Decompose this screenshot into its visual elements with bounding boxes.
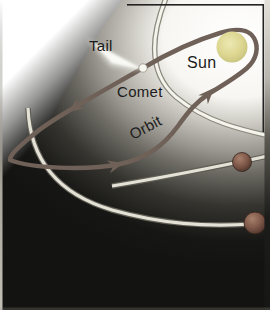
- comet-head: [139, 64, 147, 72]
- orbit-label: Orbit: [126, 111, 164, 142]
- inner-planet: [233, 153, 252, 172]
- diagram-canvas: Tail Sun Comet Orbit: [0, 0, 270, 310]
- comet-orbit-figure: Tail Sun Comet Orbit: [0, 0, 270, 310]
- outer-planet: [244, 212, 266, 234]
- panel-right-frame-line: [263, 4, 265, 132]
- comet-label: Comet: [117, 83, 163, 100]
- page-left-edge: [0, 0, 3, 310]
- page-right-edge: [265, 0, 271, 310]
- tail-label: Tail: [89, 37, 113, 54]
- panel-top-frame-line: [127, 4, 264, 6]
- sun-label: Sun: [187, 54, 216, 71]
- sun: [217, 32, 248, 63]
